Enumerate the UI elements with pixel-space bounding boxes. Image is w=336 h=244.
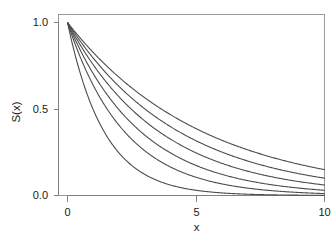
y-tick-label-0-5: 0.5 bbox=[33, 103, 48, 115]
x-tick-label-5: 5 bbox=[193, 206, 199, 218]
plot-canvas: 1.0 0.5 0.0 S(x) 0 5 10 x bbox=[0, 0, 336, 244]
x-tick-label-0: 0 bbox=[64, 206, 70, 218]
y-tick-label-0: 0.0 bbox=[33, 189, 48, 201]
y-axis-title: S(x) bbox=[10, 101, 22, 122]
figure-background bbox=[0, 0, 336, 244]
y-tick-label-1: 1.0 bbox=[33, 16, 48, 28]
x-axis-title: x bbox=[194, 221, 200, 233]
plot-figure: 1.0 0.5 0.0 S(x) 0 5 10 x bbox=[0, 0, 336, 244]
x-tick-label-10: 10 bbox=[318, 206, 330, 218]
